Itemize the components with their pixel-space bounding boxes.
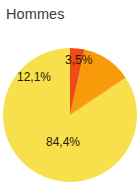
pie-slice-group bbox=[3, 48, 137, 182]
pie-slice-label-0: 84,4% bbox=[46, 136, 80, 149]
pie-slice-label-1: 12,1% bbox=[17, 71, 51, 84]
pie-chart-svg bbox=[0, 0, 140, 184]
pie-chart-plot-area: 84,4% 12,1% 3,5% bbox=[0, 0, 140, 184]
pie-chart-figure: Hommes 84,4% 12,1% 3,5% bbox=[0, 0, 140, 184]
pie-slice-label-2: 3,5% bbox=[65, 54, 92, 67]
